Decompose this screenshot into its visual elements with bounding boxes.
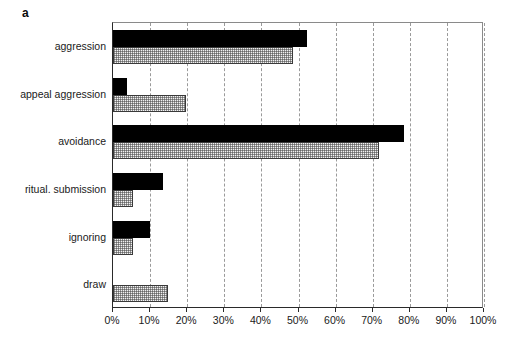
bar-avoidance-series-1-black <box>113 125 404 142</box>
x-tick-label-10%: 10% <box>139 314 160 326</box>
x-tick-label-60%: 60% <box>324 314 345 326</box>
gridline-30% <box>224 23 225 307</box>
bar-aggression-series-2-hatched <box>113 47 293 64</box>
y-axis-label-aggression: aggression <box>55 40 106 52</box>
x-tick-label-70%: 70% <box>361 314 382 326</box>
y-axis-label-ritual-submission: ritual. submission <box>25 183 106 195</box>
x-tick-label-20%: 20% <box>176 314 197 326</box>
x-axis: 0%10%20%30%40%50%60%70%80%90%100% <box>112 308 483 336</box>
y-axis-label-ignoring: ignoring <box>69 231 106 243</box>
x-tick-100% <box>483 308 484 312</box>
x-tick-80% <box>409 308 410 312</box>
panel-label: a <box>22 6 29 20</box>
x-tick-30% <box>223 308 224 312</box>
x-tick-label-80%: 80% <box>398 314 419 326</box>
gridline-20% <box>187 23 188 307</box>
y-axis-label-appeal-aggression: appeal aggression <box>20 88 106 100</box>
gridline-50% <box>299 23 300 307</box>
x-tick-90% <box>446 308 447 312</box>
x-tick-60% <box>335 308 336 312</box>
x-tick-20% <box>186 308 187 312</box>
x-tick-label-30%: 30% <box>213 314 234 326</box>
gridline-60% <box>336 23 337 307</box>
bar-avoidance-series-2-hatched <box>113 142 379 159</box>
x-tick-40% <box>260 308 261 312</box>
x-tick-label-100%: 100% <box>470 314 497 326</box>
x-tick-50% <box>298 308 299 312</box>
gridline-40% <box>261 23 262 307</box>
plot-area <box>112 22 483 308</box>
x-tick-label-90%: 90% <box>435 314 456 326</box>
x-tick-10% <box>149 308 150 312</box>
x-tick-label-0%: 0% <box>104 314 119 326</box>
bar-appeal-aggression-series-2-hatched <box>113 95 186 112</box>
bar-ignoring-series-2-hatched <box>113 238 133 255</box>
bar-appeal-aggression-series-1-black <box>113 78 127 95</box>
gridline-100% <box>484 23 485 307</box>
bar-draw-series-2-hatched <box>113 285 168 302</box>
x-tick-label-40%: 40% <box>250 314 271 326</box>
x-tick-70% <box>372 308 373 312</box>
figure-panel-a: a aggressionappeal aggressionavoidanceri… <box>0 0 516 339</box>
y-axis-label-draw: draw <box>83 278 106 290</box>
bar-ritual-submission-series-1-black <box>113 173 163 190</box>
x-tick-label-50%: 50% <box>287 314 308 326</box>
y-axis-label-avoidance: avoidance <box>58 135 106 147</box>
gridline-80% <box>410 23 411 307</box>
bar-aggression-series-1-black <box>113 30 307 47</box>
bar-ignoring-series-1-black <box>113 221 150 238</box>
bar-ritual-submission-series-2-hatched <box>113 190 133 207</box>
x-tick-0% <box>112 308 113 312</box>
gridline-90% <box>447 23 448 307</box>
y-axis-category-labels: aggressionappeal aggressionavoidanceritu… <box>0 22 106 308</box>
gridline-70% <box>373 23 374 307</box>
gridline-10% <box>150 23 151 307</box>
